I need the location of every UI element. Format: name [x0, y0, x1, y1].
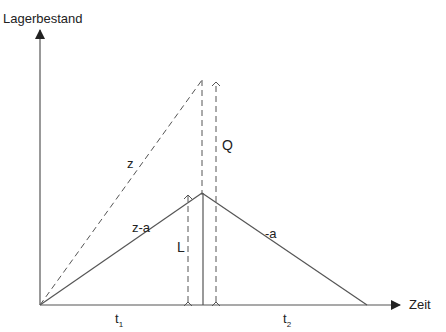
x-axis-label: Zeit	[409, 298, 431, 311]
label-t1: t1	[115, 312, 123, 325]
label-z: z	[127, 157, 134, 170]
label-z-minus-a: z-a	[132, 221, 150, 234]
t1-sub: 1	[119, 320, 123, 329]
label-minus-a: -a	[265, 227, 277, 240]
label-L: L	[177, 240, 185, 254]
line-minus-a	[202, 193, 367, 305]
line-z	[40, 80, 202, 305]
t2-sub: 2	[287, 320, 291, 329]
y-axis-label: Lagerbestand	[3, 12, 83, 25]
label-Q: Q	[222, 138, 233, 152]
label-t2: t2	[283, 312, 291, 325]
inventory-diagram	[0, 0, 446, 332]
